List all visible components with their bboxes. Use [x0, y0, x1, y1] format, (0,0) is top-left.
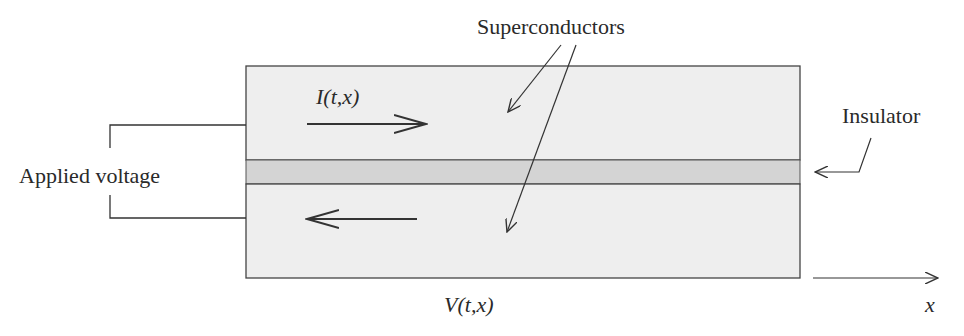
- insulator-label: Insulator: [842, 105, 920, 127]
- top-superconductor: [246, 66, 800, 160]
- applied-voltage-label: Applied voltage: [19, 165, 160, 187]
- insulator-layer: [246, 160, 800, 184]
- x-axis-label: x: [925, 294, 935, 316]
- voltage-label: V(t,x): [444, 294, 493, 316]
- insulator-leader: [815, 138, 871, 172]
- bottom-superconductor: [246, 184, 800, 278]
- top-wire: [110, 125, 246, 148]
- superconductors-label: Superconductors: [477, 16, 625, 38]
- current-label: I(t,x): [316, 86, 359, 108]
- bottom-wire: [110, 195, 246, 218]
